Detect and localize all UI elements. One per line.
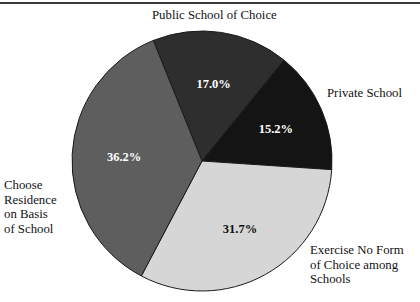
callout-line: on Basis xyxy=(4,207,57,222)
slice-value-exercise: 31.7% xyxy=(223,222,257,236)
slice-value-public-school: 17.0% xyxy=(196,77,230,91)
slice-value-private-school: 15.2% xyxy=(259,122,293,136)
callout-label-exercise-no-form: Exercise No Form of Choice among Schools xyxy=(310,243,404,287)
callout-line: Exercise No Form xyxy=(310,243,404,258)
callout-line: Residence xyxy=(4,193,57,208)
callout-line: of Choice among xyxy=(310,258,404,273)
callout-line: Choose xyxy=(4,178,57,193)
callout-label-private-school: Private School xyxy=(327,86,402,101)
slice-value-choose-residence: 36.2% xyxy=(107,150,141,164)
callout-line: Public School of Choice xyxy=(152,8,277,23)
callout-label-choose-residence: Choose Residence on Basis of School xyxy=(4,178,57,236)
callout-line: Private School xyxy=(327,86,402,101)
pie-chart-figure: 17.0% 15.2% 31.7% 36.2% Public School of… xyxy=(0,0,420,302)
callout-label-public-school: Public School of Choice xyxy=(152,8,277,23)
callout-line: of School xyxy=(4,222,57,237)
callout-line: Schools xyxy=(310,272,404,287)
